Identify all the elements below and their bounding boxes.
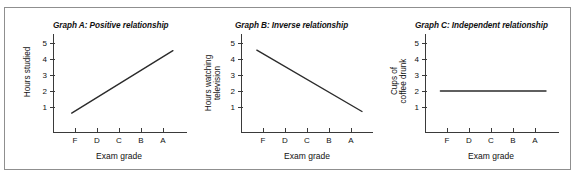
x-tick-mark — [75, 128, 76, 133]
y-tick-label: 3 — [35, 71, 47, 80]
y-tick-mark — [50, 91, 55, 92]
x-tick-label: F — [68, 136, 82, 145]
x-tick-label: D — [90, 136, 104, 145]
y-tick-label: 4 — [407, 55, 419, 64]
x-tick-mark — [97, 128, 98, 133]
x-tick-label: A — [528, 136, 542, 145]
y-tick-label: 2 — [35, 87, 47, 96]
x-tick-mark — [491, 128, 492, 133]
x-tick-mark — [163, 128, 164, 133]
x-axis-line-graph-c — [425, 132, 559, 133]
x-tick-label: C — [484, 136, 498, 145]
y-axis-title-line-2: coffee drunk — [399, 59, 408, 104]
y-tick-label: 1 — [35, 103, 47, 112]
y-tick-mark — [238, 43, 243, 44]
y-tick-label: 5 — [223, 39, 235, 48]
x-tick-mark — [469, 128, 470, 133]
chart-panel-graph-b: Graph B: Inverse relationship Hours watc… — [197, 8, 381, 171]
x-tick-mark — [535, 128, 536, 133]
x-axis-title-graph-b: Exam grade — [257, 151, 357, 161]
x-tick-label: A — [156, 136, 170, 145]
chart-title-graph-a: Graph A: Positive relationship — [53, 21, 169, 30]
x-tick-label: C — [300, 136, 314, 145]
x-tick-mark — [141, 128, 142, 133]
y-tick-label: 4 — [35, 55, 47, 64]
x-axis-title-graph-a: Exam grade — [69, 151, 169, 161]
y-tick-mark — [238, 107, 243, 108]
y-tick-label: 3 — [407, 71, 419, 80]
y-tick-mark — [50, 43, 55, 44]
x-tick-label: F — [440, 136, 454, 145]
y-tick-mark — [238, 75, 243, 76]
y-tick-mark — [50, 107, 55, 108]
y-tick-label: 2 — [223, 87, 235, 96]
y-tick-mark — [50, 59, 55, 60]
x-tick-mark — [447, 128, 448, 133]
x-tick-mark — [285, 128, 286, 133]
x-tick-mark — [119, 128, 120, 133]
x-tick-mark — [351, 128, 352, 133]
y-axis-title-line-1: Cups of — [390, 67, 399, 95]
figure-container: Graph A: Positive relationship Hours stu… — [0, 0, 576, 177]
x-tick-label: F — [256, 136, 270, 145]
x-tick-mark — [307, 128, 308, 133]
x-tick-label: A — [344, 136, 358, 145]
chart-panel-graph-a: Graph A: Positive relationship Hours stu… — [11, 8, 197, 171]
y-tick-mark — [422, 107, 427, 108]
x-tick-label: D — [278, 136, 292, 145]
y-tick-mark — [422, 75, 427, 76]
chart-title-graph-b: Graph B: Inverse relationship — [235, 21, 348, 30]
x-tick-label: C — [112, 136, 126, 145]
y-tick-mark — [422, 43, 427, 44]
x-axis-title-graph-c: Exam grade — [441, 151, 541, 161]
y-axis-title-graph-a: Hours studied — [23, 26, 32, 118]
y-axis-title-graph-b: Hours watchingtelevision — [205, 40, 223, 126]
y-axis-title-line-2: television — [213, 66, 222, 100]
x-tick-label: D — [462, 136, 476, 145]
chart-title-graph-c: Graph C: Independent relationship — [415, 21, 548, 30]
y-tick-mark — [50, 75, 55, 76]
x-tick-mark — [513, 128, 514, 133]
figure-border: Graph A: Positive relationship Hours stu… — [4, 7, 571, 170]
y-tick-label: 2 — [407, 87, 419, 96]
x-tick-label: B — [134, 136, 148, 145]
x-tick-mark — [263, 128, 264, 133]
x-tick-label: B — [322, 136, 336, 145]
y-tick-mark — [238, 91, 243, 92]
y-tick-mark — [238, 59, 243, 60]
y-axis-line-graph-b — [241, 34, 242, 132]
y-axis-line-graph-c — [425, 34, 426, 132]
y-tick-label: 1 — [223, 103, 235, 112]
y-axis-title-line-1: Hours watching — [204, 55, 213, 111]
x-axis-line-graph-a — [53, 132, 187, 133]
y-tick-label: 5 — [407, 39, 419, 48]
x-tick-label: B — [506, 136, 520, 145]
y-tick-label: 5 — [35, 39, 47, 48]
y-tick-mark — [422, 59, 427, 60]
x-tick-mark — [329, 128, 330, 133]
y-tick-mark — [422, 91, 427, 92]
y-tick-label: 1 — [407, 103, 419, 112]
y-tick-label: 3 — [223, 71, 235, 80]
chart-panel-graph-c: Graph C: Independent relationship Cups o… — [381, 8, 569, 171]
y-tick-label: 4 — [223, 55, 235, 64]
y-axis-line-graph-a — [53, 34, 54, 132]
